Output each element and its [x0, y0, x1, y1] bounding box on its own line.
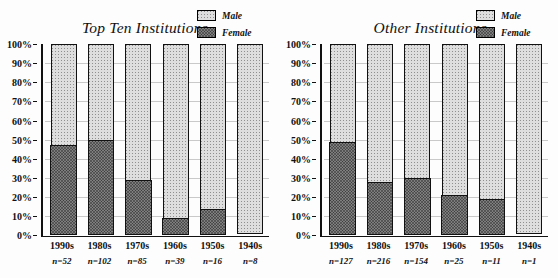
x-axis-left: 1990sn=521980sn=1021970sn=851960sn=39195… — [43, 240, 269, 266]
bar-group-left — [45, 44, 269, 234]
plot-area-right: 100%90%80%70%60%50%40%30%20%10%0% — [320, 44, 548, 237]
y-tick-mark — [33, 101, 37, 102]
x-axis-category: 1950sn=11 — [473, 240, 511, 266]
plot-frame-left — [41, 44, 269, 237]
x-tick-label: 1970s — [397, 240, 435, 251]
y-tick-mark — [33, 63, 37, 64]
x-tick-label: 1980s — [360, 240, 398, 251]
x-tick-label: 1960s — [156, 240, 194, 251]
sample-size-label: n=11 — [473, 256, 511, 266]
x-tick-label: 1940s — [510, 240, 548, 251]
bar-segment-female[interactable] — [50, 145, 77, 234]
y-tick-label: 20% — [291, 192, 311, 203]
legend-swatch-male-icon — [476, 10, 495, 21]
y-tick-label: 10% — [291, 211, 311, 222]
y-axis-right: 100%90%80%70%60%50%40%30%20%10%0% — [279, 44, 316, 235]
y-tick-mark — [312, 235, 316, 236]
stacked-bar[interactable] — [479, 44, 505, 234]
bar-segment-female[interactable] — [125, 180, 152, 235]
y-tick-label: 70% — [12, 96, 32, 107]
stacked-bar[interactable] — [51, 44, 77, 234]
sample-size-label: n=16 — [194, 256, 232, 266]
y-tick-label: 60% — [12, 115, 32, 126]
legend-item-female: Female — [197, 25, 269, 40]
y-tick-mark — [312, 63, 316, 64]
x-tick-label: 1950s — [473, 240, 511, 251]
chart-panel-other: Other Institutions Male Female 100%90%80… — [279, 0, 558, 278]
x-tick-label: 1950s — [194, 240, 232, 251]
legend-item-male: Male — [476, 8, 548, 23]
y-tick-mark — [33, 159, 37, 160]
bar-slot — [120, 44, 157, 234]
bar-slot — [436, 44, 473, 234]
stacked-bar[interactable] — [88, 44, 114, 234]
stacked-bar[interactable] — [330, 44, 356, 234]
plot-area-left: 100%90%80%70%60%50%40%30%20%10%0% — [41, 44, 269, 237]
x-axis-category: 1940sn=1 — [510, 240, 548, 266]
y-tick-label: 70% — [291, 96, 311, 107]
legend-item-female: Female — [476, 25, 548, 40]
y-tick-mark — [33, 235, 37, 236]
bar-segment-female[interactable] — [367, 182, 394, 235]
x-tick-label: 1990s — [43, 240, 81, 251]
x-axis-category: 1970sn=154 — [397, 240, 435, 266]
stacked-bar[interactable] — [200, 44, 226, 234]
plot-frame-right — [320, 44, 548, 237]
bar-slot — [324, 44, 361, 234]
bar-slot — [45, 44, 82, 234]
y-tick-label: 0% — [296, 230, 311, 241]
panel-header-left: Top Ten Institutions Male Female — [0, 8, 279, 42]
sample-size-label: n=216 — [360, 256, 398, 266]
y-tick-label: 100% — [7, 39, 32, 50]
bar-slot — [361, 44, 398, 234]
y-tick-mark — [312, 159, 316, 160]
y-tick-mark — [33, 178, 37, 179]
stacked-bar[interactable] — [125, 44, 151, 234]
panel-title-right: Other Institutions — [307, 19, 487, 37]
x-axis-category: 1980sn=216 — [360, 240, 398, 266]
y-tick-mark — [312, 140, 316, 141]
bar-segment-female[interactable] — [329, 142, 356, 235]
legend-right: Male Female — [476, 8, 548, 42]
legend-left: Male Female — [197, 8, 269, 42]
bar-segment-female[interactable] — [404, 178, 431, 235]
y-tick-label: 20% — [12, 192, 32, 203]
legend-label-male: Male — [222, 11, 242, 21]
legend-swatch-male-icon — [197, 10, 216, 21]
stacked-bar[interactable] — [163, 44, 189, 234]
legend-label-female: Female — [222, 28, 252, 38]
y-tick-mark — [312, 216, 316, 217]
x-tick-label: 1970s — [118, 240, 156, 251]
sample-size-label: n=154 — [397, 256, 435, 266]
x-tick-label: 1990s — [322, 240, 360, 251]
bar-segment-female[interactable] — [200, 209, 227, 235]
y-tick-label: 10% — [12, 211, 32, 222]
y-tick-label: 90% — [291, 58, 311, 69]
sample-size-label: n=8 — [231, 256, 269, 266]
sample-size-label: n=127 — [322, 256, 360, 266]
panel-title-left: Top Ten Institutions — [28, 19, 208, 37]
bar-segment-female[interactable] — [162, 218, 189, 235]
bar-slot — [473, 44, 510, 234]
y-tick-label: 0% — [17, 230, 32, 241]
stacked-bar[interactable] — [367, 44, 393, 234]
x-axis-right: 1990sn=1271980sn=2161970sn=1541960sn=251… — [322, 240, 548, 266]
bar-segment-female[interactable] — [88, 140, 115, 235]
y-tick-mark — [33, 216, 37, 217]
x-axis-category: 1990sn=127 — [322, 240, 360, 266]
stacked-bar[interactable] — [442, 44, 468, 234]
x-axis-category: 1960sn=25 — [435, 240, 473, 266]
y-tick-label: 100% — [286, 39, 311, 50]
y-tick-label: 50% — [291, 134, 311, 145]
bar-segment-female[interactable] — [479, 199, 506, 235]
stacked-bar[interactable] — [404, 44, 430, 234]
stacked-bar[interactable] — [237, 44, 263, 234]
y-tick-mark — [33, 82, 37, 83]
y-tick-label: 40% — [12, 153, 32, 164]
sample-size-label: n=85 — [118, 256, 156, 266]
bar-segment-female[interactable] — [441, 195, 468, 235]
y-axis-left: 100%90%80%70%60%50%40%30%20%10%0% — [0, 44, 37, 235]
y-tick-mark — [33, 44, 37, 45]
stacked-bar[interactable] — [516, 44, 542, 234]
bar-group-right — [324, 44, 548, 234]
